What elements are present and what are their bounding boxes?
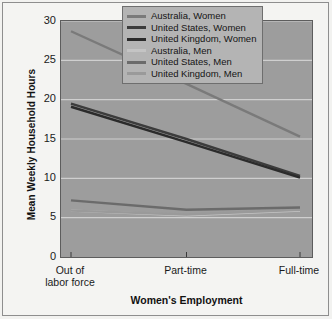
legend-item-label: United States, Women <box>151 23 246 33</box>
series-line <box>71 107 300 178</box>
legend-item: Australia, Women <box>127 11 256 21</box>
legend-color-swatch <box>127 26 146 29</box>
legend-item-label: United Kingdom, Women <box>151 34 256 44</box>
legend-item-label: Australia, Women <box>151 11 226 21</box>
legend-item: United Kingdom, Men <box>127 69 256 79</box>
chart-figure: 302520151050 Mean Weekly Household Hours… <box>0 0 332 319</box>
y-axis-tick-label: 30 <box>30 15 56 26</box>
legend-color-swatch <box>127 49 146 52</box>
x-tick-line-1: Part-time <box>141 264 231 276</box>
legend-color-swatch <box>127 72 146 75</box>
legend-item: Australia, Men <box>127 46 256 56</box>
legend-color-swatch <box>127 61 146 64</box>
series-line <box>71 104 300 176</box>
x-axis-tick-label: Part-time <box>141 264 231 276</box>
x-axis-tick-label: Out oflabor force <box>25 264 115 288</box>
chart-legend: Australia, WomenUnited States, WomenUnit… <box>122 6 263 84</box>
x-tick-line-2: labor force <box>25 276 115 288</box>
x-axis-tick-labels: Out oflabor forcePart-timeFull-time <box>60 262 313 294</box>
x-tick-line-1: Out of <box>25 264 115 276</box>
legend-color-swatch <box>127 38 146 41</box>
legend-item: United States, Women <box>127 23 256 33</box>
legend-item-label: United Kingdom, Men <box>151 69 242 79</box>
x-tick-line-1: Full-time <box>254 264 332 276</box>
legend-item-label: Australia, Men <box>151 46 212 56</box>
series-line <box>71 200 300 209</box>
legend-item-label: United States, Men <box>151 57 232 67</box>
legend-item: United States, Men <box>127 57 256 67</box>
x-axis-title: Women's Employment <box>60 294 313 306</box>
y-axis-tick-label: 0 <box>30 251 56 262</box>
x-axis-tick-label: Full-time <box>254 264 332 276</box>
legend-item: United Kingdom, Women <box>127 34 256 44</box>
legend-color-swatch <box>127 15 146 18</box>
y-axis-title: Mean Weekly Household Hours <box>26 50 37 240</box>
